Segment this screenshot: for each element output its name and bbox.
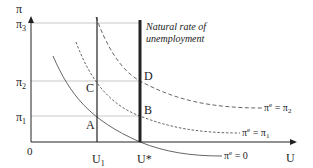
tick-u1: U1	[92, 152, 105, 168]
natural-rate-label: Natural rate of	[145, 21, 207, 32]
point-c: C	[86, 81, 94, 95]
natural-rate-label-2: unemployment	[146, 33, 205, 44]
y-axis-arrow-icon	[28, 16, 34, 23]
phillips-curve-diagram: π U 0 π3 π2 π1 U1 U* Natural rate of une…	[0, 0, 313, 168]
x-axis-arrow-icon	[290, 139, 297, 145]
point-d: D	[144, 69, 153, 83]
x-axis-label: U	[286, 151, 295, 165]
tick-pi1: π1	[16, 110, 26, 126]
point-b: B	[144, 103, 152, 117]
point-a: A	[86, 118, 95, 132]
curve-label-pie-pi1: πe = π1	[242, 126, 270, 140]
y-axis-label: π	[16, 2, 22, 16]
origin-label: 0	[27, 145, 33, 157]
curve-pie-0	[53, 56, 222, 156]
tick-pi3: π3	[16, 17, 26, 33]
curve-label-pie-0: πe = 0	[224, 149, 248, 161]
tick-pi2: π2	[16, 75, 26, 91]
tick-ustar: U*	[137, 152, 152, 166]
curve-label-pie-pi2: πe = π2	[264, 101, 292, 115]
